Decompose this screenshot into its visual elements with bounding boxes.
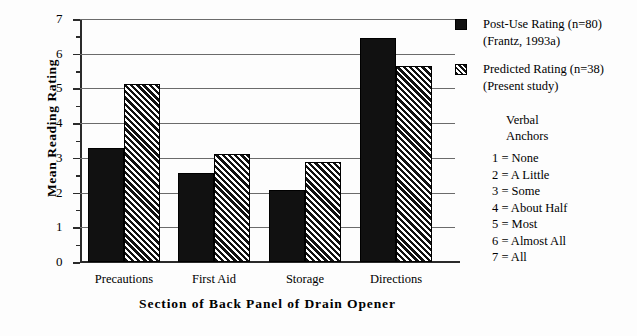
y-tick-label: 4 bbox=[56, 115, 63, 131]
y-tick-major bbox=[73, 262, 80, 264]
y-tick-major bbox=[73, 193, 80, 195]
y-tick-label: 5 bbox=[56, 80, 63, 96]
legend-swatch-solid-icon bbox=[455, 19, 467, 30]
legend-label-predicted: Predicted Rating (n=38) bbox=[483, 61, 635, 78]
verbal-anchors-title: Verbal Anchors bbox=[506, 112, 567, 144]
plot-area: 01234567 bbox=[80, 19, 455, 262]
x-category-label: Storage bbox=[286, 272, 324, 287]
bar-group-container bbox=[80, 19, 455, 262]
y-tick-label: 3 bbox=[56, 150, 63, 166]
y-tick-label: 2 bbox=[56, 185, 63, 201]
y-tick-label: 6 bbox=[56, 46, 63, 62]
chart-figure: Mean Reading Rating 01234567 Precautions… bbox=[0, 0, 637, 336]
verbal-anchor-item: 4 = About Half bbox=[492, 200, 567, 217]
y-tick-label: 7 bbox=[56, 11, 63, 27]
legend-sublabel-predicted: (Present study) bbox=[483, 78, 635, 95]
legend-label-post-use: Post-Use Rating (n=80) bbox=[483, 16, 635, 33]
verbal-anchor-item: 2 = A Little bbox=[492, 167, 567, 184]
legend-sublabel-post-use: (Frantz, 1993a) bbox=[483, 33, 635, 50]
verbal-anchor-item: 1 = None bbox=[492, 150, 567, 167]
verbal-anchors-title-line1: Verbal bbox=[506, 112, 567, 128]
x-axis-title: Section of Back Panel of Drain Opener bbox=[80, 296, 455, 312]
y-tick-major bbox=[73, 123, 80, 125]
x-category-label: Precautions bbox=[95, 272, 153, 287]
legend-spacer bbox=[455, 52, 635, 61]
legend-swatch-hatch-icon bbox=[455, 64, 467, 75]
x-category-label: Directions bbox=[370, 272, 422, 287]
verbal-anchor-item: 7 = All bbox=[492, 249, 567, 266]
verbal-anchors-block: Verbal Anchors 1 = None2 = A Little3 = S… bbox=[492, 112, 567, 266]
y-tick-major bbox=[73, 158, 80, 160]
verbal-anchor-item: 3 = Some bbox=[492, 183, 567, 200]
y-tick-label: 1 bbox=[56, 219, 63, 235]
y-tick-major bbox=[73, 19, 80, 21]
bar bbox=[360, 38, 396, 262]
bar bbox=[305, 162, 341, 262]
bar bbox=[88, 148, 124, 262]
verbal-anchor-item: 6 = Almost All bbox=[492, 233, 567, 250]
verbal-anchor-item: 5 = Most bbox=[492, 216, 567, 233]
y-tick-major bbox=[73, 227, 80, 229]
verbal-anchors-list: 1 = None2 = A Little3 = Some4 = About Ha… bbox=[492, 150, 567, 266]
verbal-anchors-title-line2: Anchors bbox=[506, 128, 567, 144]
y-tick-major bbox=[73, 54, 80, 56]
y-tick-label: 0 bbox=[56, 254, 63, 270]
y-tick-major bbox=[73, 88, 80, 90]
legend-entry-predicted: Predicted Rating (n=38) (Present study) bbox=[455, 61, 635, 95]
bar bbox=[396, 66, 432, 262]
legend-entry-post-use: Post-Use Rating (n=80) (Frantz, 1993a) bbox=[455, 16, 635, 50]
bar bbox=[214, 154, 250, 262]
legend: Post-Use Rating (n=80) (Frantz, 1993a) P… bbox=[455, 16, 635, 97]
bar bbox=[269, 190, 305, 262]
bar bbox=[124, 84, 160, 262]
bar bbox=[178, 173, 214, 262]
x-category-label: First Aid bbox=[192, 272, 236, 287]
